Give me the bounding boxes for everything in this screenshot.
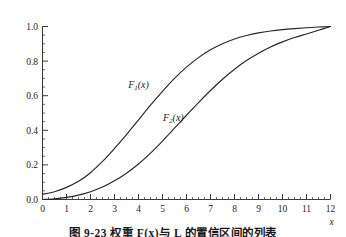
- figure-caption: 图 9-23 权重 F(x)与 L 的置信区间的列表: [0, 224, 346, 237]
- y-tick-label: 0.4: [26, 126, 38, 136]
- x-tick-label: 4: [136, 204, 141, 214]
- y-tick-label: 1.0: [26, 22, 38, 32]
- x-tick-label: 11: [302, 204, 311, 214]
- x-tick-label: 3: [112, 204, 117, 214]
- cdf-chart: 01234567891011120.00.20.40.60.81.0 F1(x)…: [0, 0, 346, 237]
- curves-group: [43, 27, 331, 200]
- x-tick-label: 5: [160, 204, 165, 214]
- curve-1: [43, 27, 331, 195]
- figure-container: 01234567891011120.00.20.40.60.81.0 F1(x)…: [0, 0, 346, 237]
- x-tick-label: 12: [326, 204, 336, 214]
- x-tick-label: 10: [278, 204, 288, 214]
- x-tick-label: 1: [64, 204, 69, 214]
- x-tick-label: 6: [184, 204, 189, 214]
- curve-2: [43, 27, 331, 200]
- y-tick-label: 0.8: [26, 57, 38, 67]
- y-tick-label: 0.0: [26, 195, 38, 205]
- y-tick-label: 0.2: [26, 160, 38, 170]
- curve-labels-group: F1(x)F2(x): [127, 79, 184, 125]
- ticks-group: [43, 27, 331, 200]
- x-tick-label: 9: [256, 204, 261, 214]
- x-tick-label: 7: [208, 204, 213, 214]
- x-tick-label: 2: [88, 204, 93, 214]
- axes-group: [43, 27, 331, 200]
- x-tick-label: 0: [40, 204, 45, 214]
- y-tick-label: 0.6: [26, 91, 38, 101]
- x-tick-label: 8: [232, 204, 237, 214]
- curve-label-1: F1(x): [127, 79, 149, 92]
- curve-label-2: F2(x): [162, 112, 184, 125]
